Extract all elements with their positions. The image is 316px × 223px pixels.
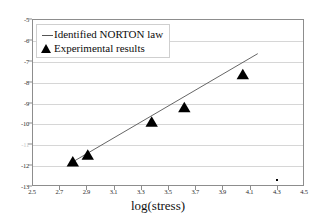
x-axis-tick-label: 2.5 <box>28 188 36 196</box>
gridline <box>33 124 303 125</box>
gridline <box>33 104 303 105</box>
gridline <box>33 166 303 167</box>
gridline <box>33 145 303 146</box>
legend-item-label: Experimental results <box>54 42 145 55</box>
legend-item-identified-norton-law[interactable]: Identified NORTON law <box>40 27 163 42</box>
legend-item-experimental-results[interactable]: Experimental results <box>40 41 145 56</box>
legend-triangle-icon <box>40 42 54 55</box>
x-axis-tick-label: 4.5 <box>300 188 308 196</box>
stray-dot-annotation <box>276 179 278 181</box>
x-axis-tick-mark <box>141 186 142 190</box>
x-axis-tick-mark <box>195 186 196 190</box>
norton-law-chart: -5-6-7-8-9-10-11-12-13 2.52.72.93.13.33.… <box>0 0 316 223</box>
x-axis-tick-mark <box>250 186 251 190</box>
x-axis-tick-mark <box>86 186 87 190</box>
gridline <box>33 83 303 84</box>
chart-legend: Identified NORTON law Experimental resul… <box>36 24 170 58</box>
x-axis-tick-mark <box>168 186 169 190</box>
legend-item-label: Identified NORTON law <box>54 28 163 41</box>
x-axis-tick-mark <box>277 186 278 190</box>
x-axis-tick-mark <box>222 186 223 190</box>
x-axis-tick-mark <box>59 186 60 190</box>
gridline <box>33 62 303 63</box>
x-axis-title: log(stress) <box>0 198 316 214</box>
x-axis-tick-mark <box>114 186 115 190</box>
